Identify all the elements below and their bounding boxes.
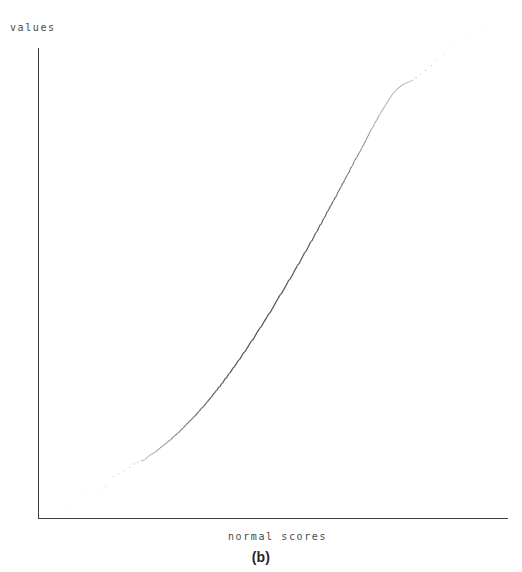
figure-caption: (b) xyxy=(0,549,522,565)
data-points-group xyxy=(68,26,483,504)
axis-lines xyxy=(38,48,508,519)
x-axis-label: normal scores xyxy=(228,531,327,543)
figure-container: values normal scores (b) xyxy=(0,0,522,572)
scatter-plot-canvas xyxy=(0,0,522,572)
